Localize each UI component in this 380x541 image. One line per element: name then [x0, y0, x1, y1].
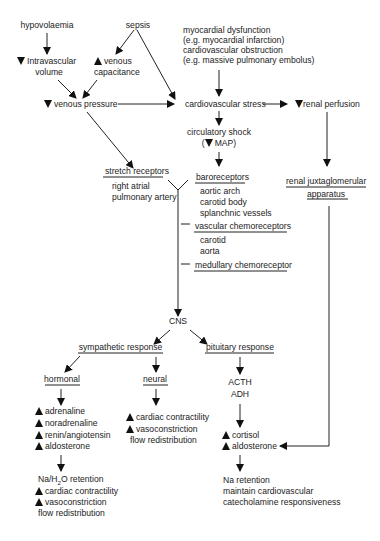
renal-perfusion-node: renal perfusion — [295, 99, 360, 110]
hormonal-title: hormonal — [43, 374, 81, 385]
baroreceptor-item: carotid body — [200, 197, 247, 208]
cardiovascular-stress-node: cardiovascular stress — [185, 99, 266, 110]
increase-icon — [222, 431, 230, 439]
intravascular-volume-node: Intravascular — [17, 56, 76, 67]
venous-pressure-node: venous pressure — [44, 99, 118, 110]
maintain-cardiovascular: maintain cardiovascular — [223, 486, 313, 497]
increase-icon — [35, 442, 43, 450]
connector-layer — [0, 0, 380, 541]
venous-capacitance-line2: capacitance — [94, 67, 140, 78]
na-retention: Na retention — [223, 475, 270, 486]
decrease-icon — [44, 100, 52, 108]
adh-label: ADH — [225, 389, 255, 400]
list-item: noradrenaline — [35, 418, 98, 429]
catecholamine-responsiveness: catecholamine responsiveness — [223, 497, 341, 508]
stretch-receptor-item: pulmonary artery — [112, 192, 176, 203]
baroreceptor-item: aortic arch — [200, 186, 240, 197]
decrease-icon — [17, 57, 25, 65]
list-item: cortisol — [222, 430, 259, 441]
stretch-receptors-title: stretch receptors — [105, 166, 169, 177]
increase-icon — [35, 498, 43, 506]
hypovolaemia-label: hypovolaemia — [10, 20, 84, 31]
list-item: adrenaline — [35, 406, 85, 417]
renal-jga-title-line2: apparatus — [286, 189, 366, 200]
decrease-icon — [205, 139, 213, 147]
acth-label: ACTH — [225, 377, 255, 388]
circulatory-shock-map: (MAP) — [179, 138, 259, 149]
stretch-receptor-item: right atrial — [112, 181, 150, 192]
sympathetic-response-title: sympathetic response — [78, 342, 163, 353]
neural-title: neural — [140, 374, 170, 385]
increase-icon — [35, 431, 43, 439]
medullary-chemoreceptor-title: medullary chemoreceptor — [195, 260, 292, 271]
increase-icon — [222, 442, 230, 450]
list-item: aldosterone — [35, 441, 90, 452]
pituitary-response-title: pituitary response — [205, 342, 275, 353]
cns-node: CNS — [163, 316, 193, 327]
list-item: vasoconstriction — [35, 497, 107, 508]
increase-icon — [126, 425, 134, 433]
circulatory-shock-node: circulatory shock — [179, 127, 259, 138]
vascular-chemoreceptor-item: aorta — [200, 246, 220, 257]
sepsis-label: sepsis — [118, 20, 158, 31]
cause-example-pe: (e.g. massive pulmonary embolus) — [183, 55, 314, 66]
venous-capacitance-node: venous — [94, 56, 132, 67]
baroreceptor-item: splanchnic vessels — [200, 208, 272, 219]
increase-icon — [35, 487, 43, 495]
vascular-chemoreceptors-title: vascular chemoreceptors — [195, 221, 291, 232]
list-item: vasoconstriction — [126, 424, 198, 435]
baroreceptors-title: baroreceptors — [196, 172, 249, 183]
increase-icon — [35, 407, 43, 415]
increase-icon — [126, 413, 134, 421]
list-item: cardiac contractility — [126, 412, 209, 423]
vascular-chemoreceptor-item: carotid — [200, 235, 226, 246]
list-item: cardiac contractility — [35, 486, 118, 497]
list-item: flow redistribution — [130, 435, 197, 446]
list-item: aldosterone — [222, 441, 277, 452]
decrease-icon — [295, 100, 303, 108]
increase-icon — [94, 57, 102, 65]
intravascular-volume-line2: volume — [17, 67, 81, 78]
renal-jga-title: renal juxtaglomerular — [286, 176, 366, 187]
list-item: renin/angiotensin — [35, 430, 110, 441]
list-item: flow redistribution — [38, 508, 105, 519]
increase-icon — [35, 419, 43, 427]
